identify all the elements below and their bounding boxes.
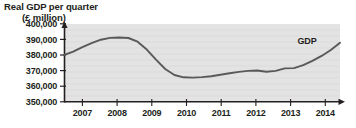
y-tick-label: 380,000 <box>26 50 57 60</box>
y-tick-label: 390,000 <box>26 35 57 45</box>
y-tick-labels: 400,000 390,000 380,000 370,000 360,000 … <box>26 19 57 107</box>
x-tick-label: 2012 <box>246 108 265 118</box>
y-tick-label: 370,000 <box>26 66 57 76</box>
x-tick-label: 2007 <box>73 108 92 118</box>
x-tick-label: 2009 <box>142 108 161 118</box>
y-tick-label: 350,000 <box>26 97 57 107</box>
chart-figure: Real GDP per quarter (£ million) <box>0 0 356 128</box>
x-tick-label: 2008 <box>107 108 126 118</box>
x-tick-labels: 2007 2008 2009 2010 2011 2012 2013 2014 <box>73 108 335 118</box>
x-tick-label: 2011 <box>212 108 231 118</box>
x-tick-label: 2013 <box>281 108 300 118</box>
y-tick-label: 360,000 <box>26 81 57 91</box>
line-chart-plot: 400,000 390,000 380,000 370,000 360,000 … <box>0 0 356 128</box>
x-tick-label: 2014 <box>316 108 335 118</box>
y-tick-label: 400,000 <box>26 19 57 29</box>
x-tick-label: 2010 <box>177 108 196 118</box>
gdp-series-label: GDP <box>298 36 317 46</box>
